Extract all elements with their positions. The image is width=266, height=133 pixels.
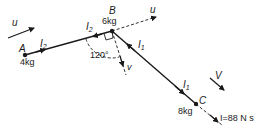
angle-label: 120° — [90, 50, 109, 60]
impulse-i1-arrow-b — [127, 44, 135, 51]
v-label: v — [127, 62, 132, 72]
impulse-diagram: u u v 120° V A 4kg B 6kg C 8kg I2 I2 I1 … — [0, 0, 266, 133]
velocity-v-arrow — [120, 56, 123, 66]
dashed-u-line — [112, 17, 156, 31]
i2-label-b: I2 — [86, 21, 93, 33]
particle-a-mass: 4kg — [20, 57, 35, 67]
impulse-label: I=88 N s — [220, 113, 254, 123]
particle-c — [194, 102, 198, 106]
particle-b-label: B — [109, 5, 116, 16]
impulse-arrow — [210, 115, 218, 122]
i2-label-a: I2 — [40, 38, 47, 50]
particle-b-mass: 6kg — [102, 16, 117, 26]
particle-b — [110, 29, 114, 33]
i1-label-b: I1 — [138, 39, 145, 51]
particle-c-label: C — [199, 95, 207, 106]
u-left-label: u — [12, 17, 18, 28]
V-label: V — [215, 70, 223, 81]
i1-label-c: I1 — [183, 79, 190, 91]
u-right-label: u — [150, 4, 156, 15]
particle-a-label: A — [18, 43, 26, 54]
velocity-u-left-arrow — [8, 28, 34, 38]
particle-c-mass: 8kg — [178, 106, 193, 116]
